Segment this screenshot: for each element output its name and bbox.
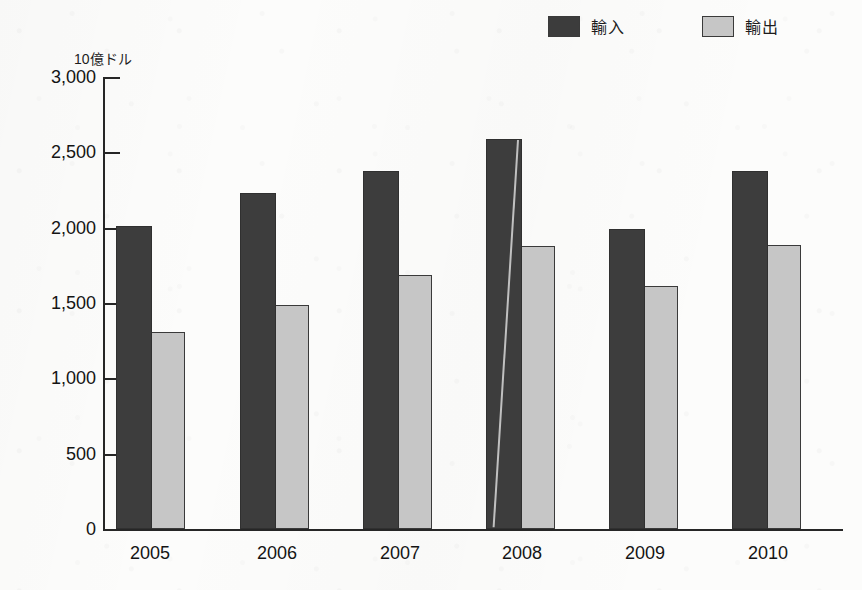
y-axis-unit-caption: 10億ドル bbox=[74, 48, 132, 68]
y-tick-label-2000: 2,000 bbox=[14, 218, 96, 239]
y-tick-label-500: 500 bbox=[14, 444, 96, 465]
bar-imports-2005 bbox=[116, 226, 152, 529]
bar-imports-2010 bbox=[732, 171, 768, 529]
bar-exports-2009 bbox=[644, 286, 678, 529]
legend-label-exports: 輸出 bbox=[745, 14, 778, 38]
bar-imports-2007 bbox=[363, 171, 399, 529]
y-tick-label-0: 0 bbox=[14, 519, 96, 540]
x-tick-label-2009: 2009 bbox=[625, 543, 665, 564]
plot-area: 3,000 2,500 2,000 1,500 1,000 500 0 bbox=[0, 0, 862, 590]
y-tick-2500 bbox=[105, 152, 120, 154]
legend-item-imports: 輸入 bbox=[548, 14, 624, 38]
x-tick-label-2005: 2005 bbox=[130, 543, 170, 564]
chart-page: 輸入 輸出 10億ドル 3,000 2,500 2,000 1,500 bbox=[0, 0, 862, 590]
chart-legend: 輸入 輸出 bbox=[548, 14, 778, 38]
bar-imports-2009 bbox=[609, 229, 645, 529]
x-axis-line bbox=[103, 529, 843, 531]
bar-exports-2010 bbox=[767, 245, 801, 529]
bar-exports-2005 bbox=[151, 332, 185, 529]
x-tick-label-2007: 2007 bbox=[380, 543, 420, 564]
y-tick-3000 bbox=[105, 77, 120, 79]
x-tick-label-2008: 2008 bbox=[502, 543, 542, 564]
y-tick-label-3000: 3,000 bbox=[14, 67, 96, 88]
legend-item-exports: 輸出 bbox=[702, 14, 778, 38]
bar-exports-2007 bbox=[398, 275, 432, 529]
y-tick-label-2500: 2,500 bbox=[14, 142, 96, 163]
bar-imports-2006 bbox=[240, 193, 276, 529]
y-tick-label-1500: 1,500 bbox=[14, 293, 96, 314]
x-tick-label-2010: 2010 bbox=[748, 543, 788, 564]
legend-swatch-imports-icon bbox=[548, 16, 580, 37]
y-tick-label-1000: 1,000 bbox=[14, 368, 96, 389]
legend-swatch-exports-icon bbox=[702, 16, 734, 37]
x-tick-label-2006: 2006 bbox=[257, 543, 297, 564]
bar-exports-2006 bbox=[275, 305, 309, 529]
legend-label-imports: 輸入 bbox=[591, 14, 624, 38]
bar-imports-2008 bbox=[486, 139, 522, 529]
bar-exports-2008 bbox=[521, 246, 555, 529]
